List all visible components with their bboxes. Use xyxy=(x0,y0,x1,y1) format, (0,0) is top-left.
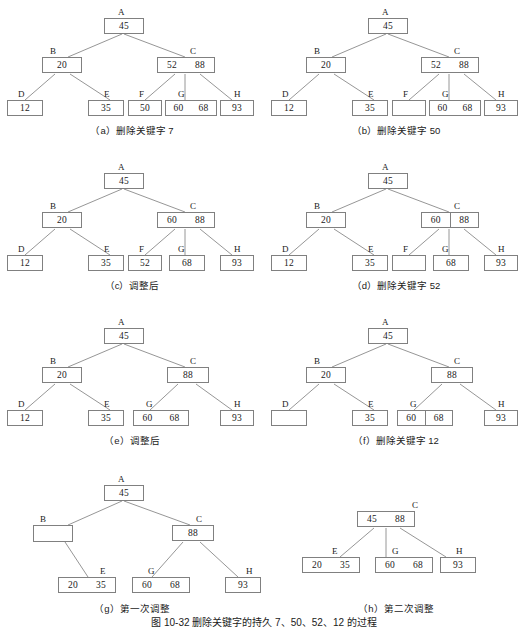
node-B: 20 xyxy=(42,212,82,228)
key-cell: 93 xyxy=(221,101,253,115)
node-name-B: B xyxy=(50,202,56,211)
node-name-D: D xyxy=(18,400,25,409)
node-name-F: F xyxy=(139,90,144,99)
node-C: 88 xyxy=(431,367,473,383)
key-cell: 35 xyxy=(87,578,115,592)
node-A: 45 xyxy=(368,18,408,34)
panel-c: A 45 B 20 C 60 88 D 12 E 35 F 52 G 68 H … xyxy=(0,155,264,301)
node-name-A: A xyxy=(382,8,389,17)
key-cell: 60 xyxy=(134,411,161,425)
node-name-D: D xyxy=(282,90,289,99)
node-name-C: C xyxy=(196,515,202,524)
node-H: 93 xyxy=(220,100,254,116)
panel-caption-f: （f）删除关键字 12 xyxy=(264,435,528,446)
key-cell: 68 xyxy=(161,578,189,592)
key-cell: 68 xyxy=(404,558,432,572)
key-cell: 93 xyxy=(221,411,253,425)
node-H: 93 xyxy=(484,100,518,116)
panel-g: A 45 B C 88 E 20 35 G 60 68 H 93 （g）第一次调… xyxy=(0,465,264,620)
key-cell: 12 xyxy=(8,256,42,270)
key-cell: 68 xyxy=(161,411,188,425)
node-B: 20 xyxy=(306,57,346,73)
node-E: 20 35 xyxy=(302,557,360,573)
panel-f: A 45 B 20 C 88 D E 35 G 60 68 H 93 （f）删除… xyxy=(264,310,528,456)
key-cell: 35 xyxy=(89,256,123,270)
node-name-G: G xyxy=(146,400,153,409)
key-cell: 60 xyxy=(398,411,425,425)
node-D: 12 xyxy=(271,255,307,271)
key-cell: 20 xyxy=(43,368,81,382)
key-cell: 45 xyxy=(105,19,143,33)
node-name-D: D xyxy=(18,245,25,254)
key-cell: 12 xyxy=(272,256,306,270)
node-name-C: C xyxy=(190,47,196,56)
key-cell: 68 xyxy=(434,256,468,270)
node-D: 12 xyxy=(7,255,43,271)
key-cell: 68 xyxy=(191,101,216,115)
node-name-A: A xyxy=(118,163,125,172)
node-C: 88 xyxy=(172,525,214,541)
node-name-C: C xyxy=(190,357,196,366)
node-G: 60 68 xyxy=(132,577,190,593)
node-name-C: C xyxy=(412,501,418,510)
node-B: 20 xyxy=(306,367,346,383)
node-E: 35 xyxy=(88,100,124,116)
panel-caption-a: （a）删除关键字 7 xyxy=(0,125,264,136)
node-name-E: E xyxy=(100,567,106,576)
node-name-H: H xyxy=(234,90,241,99)
node-name-A: A xyxy=(382,318,389,327)
key-cell: 20 xyxy=(307,368,345,382)
node-name-H: H xyxy=(498,400,505,409)
node-name-G: G xyxy=(392,547,399,556)
node-G: 68 xyxy=(169,255,205,271)
node-F: 50 xyxy=(128,100,162,116)
key-cell: 20 xyxy=(59,578,87,592)
node-C: 52 88 xyxy=(157,57,215,73)
key-cell: 88 xyxy=(186,58,214,72)
key-cell: 93 xyxy=(441,558,475,572)
key-cell: 20 xyxy=(303,558,331,572)
node-name-E: E xyxy=(368,90,374,99)
node-name-C: C xyxy=(454,202,460,211)
key-cell: 45 xyxy=(105,329,143,343)
panel-caption-g: （g）第一次调整 xyxy=(0,603,264,614)
panel-caption-h: （h）第二次调整 xyxy=(264,603,528,614)
node-name-H: H xyxy=(498,245,505,254)
node-name-E: E xyxy=(104,400,110,409)
node-name-E: E xyxy=(368,245,374,254)
key-cell: 93 xyxy=(485,256,517,270)
key-cell: 60 xyxy=(422,213,450,227)
node-G: 60 68 xyxy=(375,557,433,573)
key-cell: 88 xyxy=(432,368,472,382)
node-E: 20 35 xyxy=(58,577,116,593)
node-D: 12 xyxy=(7,410,43,426)
panel-b: A 45 B 20 C 52 88 D 12 E 35 F G 60 68 H … xyxy=(264,0,528,146)
key-cell: 20 xyxy=(43,213,81,227)
node-C: 45 88 xyxy=(357,511,415,527)
panel-caption-b: （b）删除关键字 50 xyxy=(264,125,528,136)
node-H: 93 xyxy=(220,410,254,426)
key-cell: 88 xyxy=(450,58,478,72)
key-cell: 12 xyxy=(8,411,42,425)
node-name-E: E xyxy=(104,245,110,254)
node-H: 93 xyxy=(220,255,254,271)
node-E: 35 xyxy=(88,255,124,271)
node-H: 93 xyxy=(484,410,518,426)
key-cell: 60 xyxy=(430,101,455,115)
node-H: 93 xyxy=(225,577,261,593)
key-cell: 88 xyxy=(168,368,208,382)
key-cell: 45 xyxy=(105,174,143,188)
node-C: 60 88 xyxy=(157,212,215,228)
node-name-G: G xyxy=(178,245,185,254)
node-name-H: H xyxy=(234,245,241,254)
panel-h: C 45 88 E 20 35 G 60 68 H 93 （h）第二次调整 xyxy=(264,465,528,620)
node-name-B: B xyxy=(50,357,56,366)
node-name-A: A xyxy=(382,163,389,172)
node-A: 45 xyxy=(104,485,144,501)
node-name-B: B xyxy=(50,47,56,56)
node-B: 20 xyxy=(42,367,82,383)
key-cell: 60 xyxy=(376,558,404,572)
key-cell: 35 xyxy=(89,101,123,115)
node-D xyxy=(271,410,307,426)
node-B: 20 xyxy=(306,212,346,228)
